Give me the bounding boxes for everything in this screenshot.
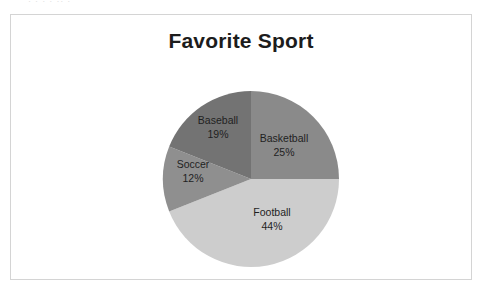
pie-label-basketball-percent: 25% xyxy=(245,145,323,159)
pie-label-basketball-name: Basketball xyxy=(245,131,323,145)
pie-label-baseball-percent: 19% xyxy=(187,127,249,141)
pie-label-baseball-name: Baseball xyxy=(187,113,249,127)
pie-label-baseball: Baseball 19% xyxy=(187,113,249,141)
pie-label-soccer-percent: 12% xyxy=(163,171,223,185)
pie-label-basketball: Basketball 25% xyxy=(245,131,323,159)
pie-label-soccer-name: Soccer xyxy=(163,157,223,171)
pie-label-football: Football 44% xyxy=(235,205,309,233)
pie-label-soccer: Soccer 12% xyxy=(163,157,223,185)
chart-title: Favorite Sport xyxy=(11,29,471,53)
pie-label-football-name: Football xyxy=(235,205,309,219)
scan-artifact-text: · · · · ·· · xyxy=(28,0,228,8)
chart-frame: Favorite Sport Basketball 25% Football 4… xyxy=(10,14,472,280)
pie-label-football-percent: 44% xyxy=(235,219,309,233)
pie-chart: Basketball 25% Football 44% Soccer 12% B… xyxy=(161,89,341,269)
